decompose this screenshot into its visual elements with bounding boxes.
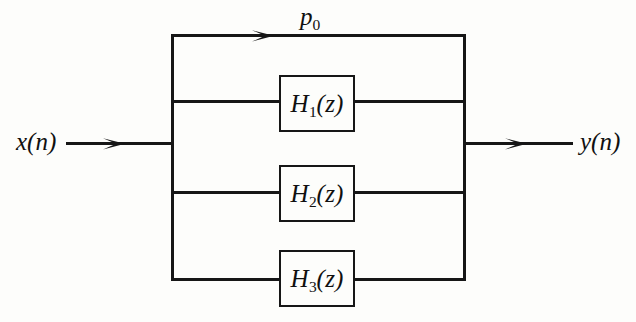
input-bus-vertical-line [171, 34, 174, 281]
block-h1-label: H1(z) [290, 91, 343, 116]
input-wire [66, 142, 173, 145]
branch-h3-wire-right [352, 278, 466, 281]
block-h2-label: H2(z) [290, 181, 343, 206]
branch-h2-wire-right [352, 191, 466, 194]
block-h1: H1(z) [279, 75, 355, 132]
output-label: y(n) [580, 129, 620, 154]
branch-h1-wire-left [171, 100, 283, 103]
branch-h1-wire-right [352, 100, 466, 103]
output-wire [463, 142, 573, 145]
direct-path-subscript: 0 [313, 16, 321, 33]
branch-h2-wire-left [171, 191, 283, 194]
block-diagram-figure: p0 H1(z) x(n) y(n) H2(z) H3(z) [0, 0, 636, 322]
direct-path-label: p0 [300, 4, 320, 29]
input-label: x(n) [16, 129, 56, 154]
block-h3-label: H3(z) [290, 266, 343, 291]
direct-path-wire [171, 34, 466, 37]
block-h2: H2(z) [279, 165, 355, 222]
direct-path-symbol: p [300, 3, 313, 30]
block-h3: H3(z) [279, 250, 355, 307]
branch-h3-wire-left [171, 278, 283, 281]
output-bus-vertical-line [463, 34, 466, 281]
